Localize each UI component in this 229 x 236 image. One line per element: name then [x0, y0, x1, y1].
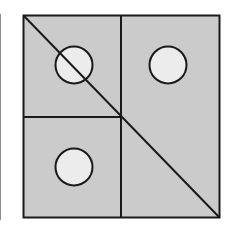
circle-top-left — [56, 47, 93, 84]
circle-bottom-left — [56, 149, 93, 186]
partitioned-square-diagram — [0, 0, 229, 236]
circle-top-right — [150, 47, 187, 84]
